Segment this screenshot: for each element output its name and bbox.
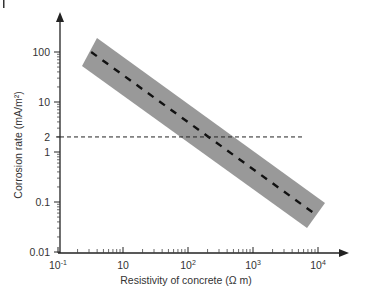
x-tick-label: 103 (245, 259, 261, 271)
y-tick-label: 0.1 (35, 196, 50, 208)
y-tick-label: 2 (44, 131, 50, 143)
band-polygon (82, 38, 325, 228)
x-axis-arrow-icon (339, 249, 349, 257)
corner-mark (3, 0, 5, 8)
x-tick-label: 10 (117, 259, 129, 271)
y-tick-label: 100 (32, 46, 50, 58)
y-tick-label: 1 (44, 146, 50, 158)
y-axis: 10010210.10.01 (30, 12, 64, 258)
chart: 10010210.10.01 10-110102103104 Resistivi… (0, 0, 365, 301)
y-axis-title: Corrosion rate (mA/m²) (12, 91, 24, 198)
y-tick-label: 10 (38, 96, 50, 108)
x-tick-label: 102 (180, 259, 196, 271)
x-tick-label: 10-1 (49, 259, 67, 271)
x-tick-label: 104 (310, 259, 326, 271)
scatter-band (82, 38, 325, 228)
y-tick-label: 0.01 (30, 246, 51, 258)
x-axis: 10-110102103104 (49, 247, 349, 271)
y-axis-arrow-icon (56, 12, 64, 22)
x-axis-title: Resistivity of concrete (Ω m) (120, 274, 252, 286)
